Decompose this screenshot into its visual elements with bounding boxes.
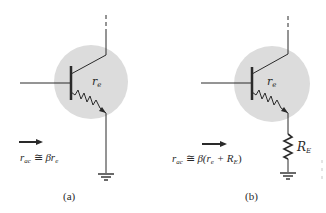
re-label-a-sub: e	[97, 81, 101, 89]
formula-b-rhs-mid: + R	[214, 152, 234, 164]
input-direction-arrow-a	[19, 139, 43, 145]
re-label-b: re	[267, 76, 276, 89]
formula-a-rhs: βr	[45, 151, 55, 163]
input-direction-arrow-b	[202, 141, 227, 147]
formula-a-lhs-sub: ac	[24, 157, 31, 165]
formula-a: rac ≅ βre	[20, 152, 58, 165]
ground-icon-b	[280, 173, 296, 179]
formula-b: rac ≅ β(re + RE)	[172, 153, 242, 166]
caption-a: (a)	[63, 191, 75, 202]
formula-b-rhs-tail: )	[238, 152, 242, 164]
re-label-b-sub: e	[272, 81, 276, 89]
RE-label-b: RE	[297, 141, 311, 155]
caption-b: (b)	[245, 191, 258, 202]
bjt-input-impedance-diagram	[0, 0, 326, 213]
RE-label-sub: E	[306, 147, 311, 155]
re-label-a: re	[92, 76, 101, 89]
RE-label-base: R	[297, 140, 306, 154]
formula-b-lhs-sub: ac	[176, 158, 183, 166]
formula-b-op: ≅	[183, 152, 198, 164]
formula-a-op: ≅	[31, 151, 46, 163]
re-external-resistor-zigzag	[284, 134, 292, 159]
transistor-envelope-a	[54, 45, 128, 119]
formula-a-rhs-sub: e	[55, 157, 58, 165]
ground-icon-a	[98, 174, 114, 180]
formula-b-rhs: β(r	[197, 152, 210, 164]
